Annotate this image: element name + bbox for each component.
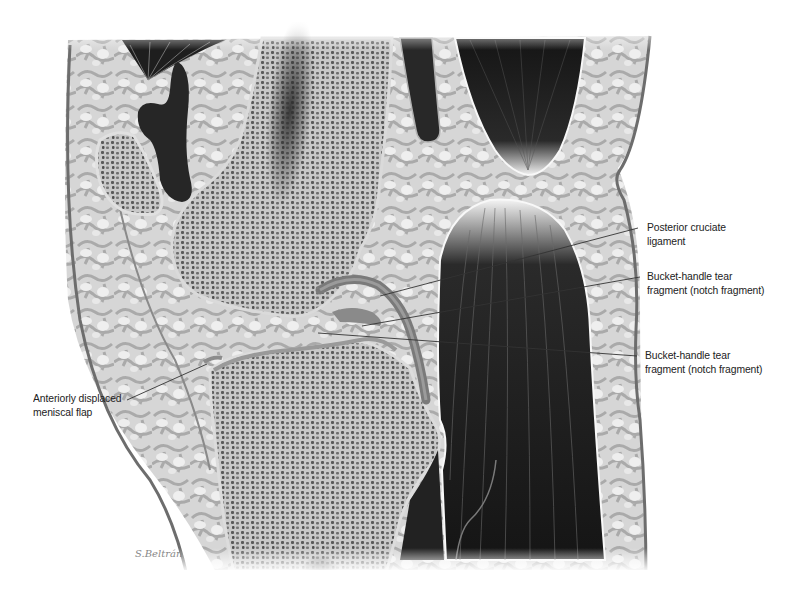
label-anteriorly-displaced-meniscal-flap: Anteriorly displaced meniscal flap [33,391,122,419]
label-line: fragment (notch fragment) [647,283,764,297]
label-bucket-handle-fragment-lower: Bucket-handle tear fragment (notch fragm… [645,348,762,376]
label-line: ligament [647,234,726,248]
label-line: Bucket-handle tear [647,269,764,283]
label-posterior-cruciate-ligament: Posterior cruciate ligament [647,220,726,248]
label-line: fragment (notch fragment) [645,362,762,376]
label-line: Posterior cruciate [647,220,726,234]
label-line: meniscal flap [33,405,122,419]
knee-sagittal-illustration [0,0,798,594]
artist-signature: S.Beltrán [135,548,182,559]
label-line: Bucket-handle tear [645,348,762,362]
label-line: Anteriorly displaced [33,391,122,405]
label-bucket-handle-fragment-upper: Bucket-handle tear fragment (notch fragm… [647,269,764,297]
